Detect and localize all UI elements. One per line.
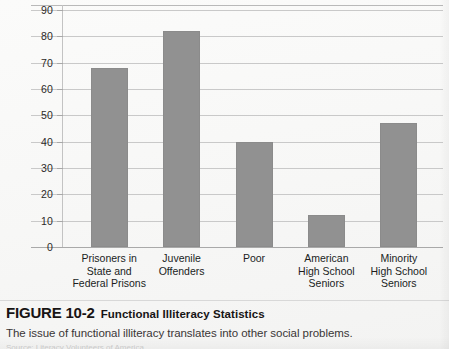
bar [163, 31, 200, 247]
bar [380, 123, 417, 247]
scan-edge-shading-bottom [0, 337, 449, 349]
x-axis-category-label-line: Offenders [137, 265, 225, 278]
figure-number: FIGURE 10-2 [6, 304, 95, 321]
bar [236, 142, 273, 247]
bar [308, 215, 345, 247]
bar [91, 68, 128, 247]
x-axis-category-labels: Prisoners inState andFederal PrisonsJuve… [31, 252, 443, 298]
bar-series [31, 5, 443, 248]
x-axis-category-label-line: High School [355, 265, 443, 278]
x-axis-category-label-line: Federal Prisons [65, 277, 153, 290]
caption-divider [0, 300, 449, 301]
figure-chart-area: 0102030405060708090 Prisoners inState an… [0, 0, 449, 300]
x-axis-category-label-line: Seniors [355, 277, 443, 290]
figure-title: Functional Illiteracy Statistics [101, 308, 265, 320]
plot-area: 0102030405060708090 [31, 5, 443, 248]
x-axis-category-label-line: Minority [355, 252, 443, 265]
scan-edge-shading-right [439, 0, 449, 349]
figure-title-line: FIGURE 10-2Functional Illiteracy Statist… [6, 304, 446, 322]
x-axis-category-label: MinorityHigh SchoolSeniors [355, 252, 443, 290]
